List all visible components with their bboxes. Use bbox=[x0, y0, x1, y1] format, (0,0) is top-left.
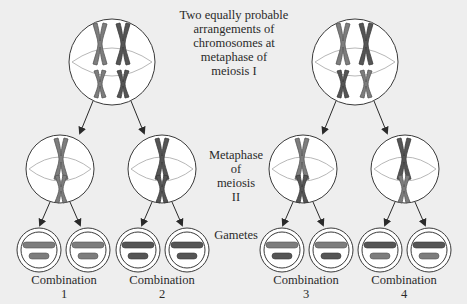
meiosis2-cell-1 bbox=[26, 135, 94, 203]
label-line: of bbox=[196, 162, 276, 176]
arrow-icon bbox=[323, 101, 336, 133]
gamete-3a bbox=[260, 228, 304, 272]
gamete-1b bbox=[66, 228, 110, 272]
meiosis1-cell-left bbox=[69, 19, 155, 105]
label-line: chromosomes at bbox=[168, 36, 300, 50]
arrow-icon bbox=[142, 202, 152, 225]
gamete-2a bbox=[116, 228, 160, 272]
label-line: Two equally probable bbox=[168, 8, 300, 22]
combination-number: 1 bbox=[24, 287, 104, 301]
combination-number: 3 bbox=[266, 287, 346, 301]
meiosis2-cell-4 bbox=[371, 135, 439, 203]
arrow-icon bbox=[374, 101, 387, 133]
combination-text: Combination bbox=[122, 273, 202, 287]
combination-text: Combination bbox=[364, 273, 444, 287]
combination-text: Combination bbox=[24, 273, 104, 287]
label-line: metaphase of bbox=[168, 50, 300, 64]
arrow-icon bbox=[131, 101, 144, 133]
meiosis1-cell-right bbox=[312, 19, 398, 105]
combination-4-label: Combination 4 bbox=[364, 273, 444, 301]
arrows-meiosis1-to-2 bbox=[80, 101, 387, 133]
gamete-4a bbox=[358, 228, 402, 272]
gamete-4b bbox=[407, 228, 451, 272]
label-line: Metaphase bbox=[196, 148, 276, 162]
combination-number: 2 bbox=[122, 287, 202, 301]
meiosis2-cell-2 bbox=[128, 135, 196, 203]
gamete-1a bbox=[17, 228, 61, 272]
arrow-icon bbox=[172, 202, 182, 225]
label-line: meiosis I bbox=[168, 64, 300, 78]
label-line: meiosis bbox=[196, 176, 276, 190]
combination-3-label: Combination 3 bbox=[266, 273, 346, 301]
combination-1-label: Combination 1 bbox=[24, 273, 104, 301]
gamete-2b bbox=[165, 228, 209, 272]
gametes-label: Gametes bbox=[206, 228, 266, 242]
combination-number: 4 bbox=[364, 287, 444, 301]
combination-2-label: Combination 2 bbox=[122, 273, 202, 301]
arrow-icon bbox=[283, 202, 293, 225]
combination-text: Combination bbox=[266, 273, 346, 287]
arrows-meiosis2-to-gametes bbox=[40, 202, 425, 225]
meiosis1-description: Two equally probable arrangements of chr… bbox=[168, 8, 300, 78]
arrow-icon bbox=[415, 202, 425, 225]
label-line: II bbox=[196, 190, 276, 204]
arrow-icon bbox=[40, 202, 50, 225]
arrow-icon bbox=[385, 202, 395, 225]
arrow-icon bbox=[313, 202, 323, 225]
label-line: arrangements of bbox=[168, 22, 300, 36]
arrow-icon bbox=[70, 202, 80, 225]
arrow-icon bbox=[80, 101, 93, 133]
meiosis2-cell-3 bbox=[269, 135, 337, 203]
meiosis2-description: Metaphase of meiosis II bbox=[196, 148, 276, 204]
gamete-3b bbox=[309, 228, 353, 272]
